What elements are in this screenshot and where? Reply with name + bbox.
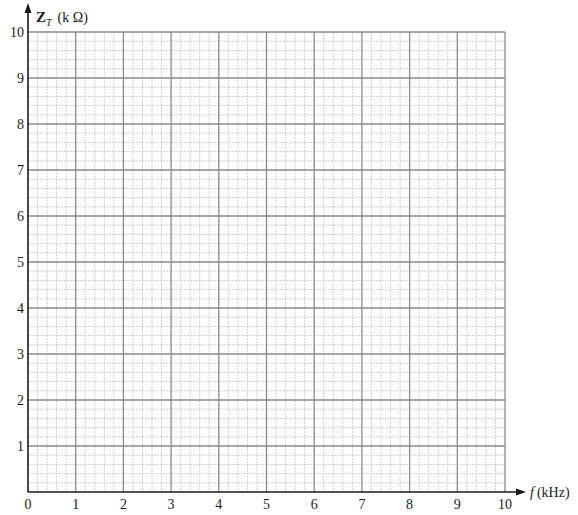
x-tick-label: 0 <box>25 497 32 512</box>
x-tick-label: 10 <box>498 497 512 512</box>
x-axis-unit: (kHz) <box>537 485 570 501</box>
y-tick-label: 8 <box>17 117 24 132</box>
background <box>0 0 578 515</box>
x-axis-label: f(kHz) <box>530 485 570 501</box>
x-tick-label: 6 <box>311 497 318 512</box>
y-tick-label: 3 <box>17 347 24 362</box>
y-tick-label: 5 <box>17 255 24 270</box>
y-axis-unit: (k Ω) <box>58 10 89 26</box>
x-tick-label: 9 <box>454 497 461 512</box>
x-tick-label: 5 <box>263 497 270 512</box>
x-tick-label: 4 <box>215 497 222 512</box>
y-tick-label: 2 <box>17 393 24 408</box>
x-tick-label: 7 <box>358 497 365 512</box>
y-tick-label: 4 <box>17 301 24 316</box>
y-axis-symbol: Z <box>36 9 46 25</box>
y-tick-label: 6 <box>17 209 24 224</box>
x-tick-label: 2 <box>120 497 127 512</box>
graph-paper-chart: 012345678910 12345678910 ZT(k Ω) f(kHz) <box>0 0 578 515</box>
x-tick-label: 1 <box>72 497 79 512</box>
y-tick-label: 10 <box>10 25 24 40</box>
y-tick-label: 7 <box>17 163 24 178</box>
y-tick-label: 1 <box>17 439 24 454</box>
x-tick-label: 8 <box>406 497 413 512</box>
x-tick-label: 3 <box>168 497 175 512</box>
y-tick-label: 9 <box>17 71 24 86</box>
